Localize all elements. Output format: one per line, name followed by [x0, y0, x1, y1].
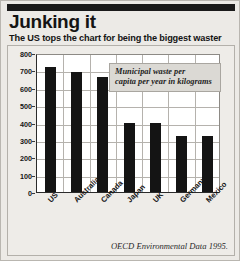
- top-rule-divider: [7, 4, 235, 11]
- y-axis-tick-label: 700: [8, 67, 32, 76]
- page-title: Junking it: [9, 12, 237, 31]
- gridline-vertical: [63, 55, 64, 192]
- y-axis-tick: [32, 71, 35, 72]
- page-subtitle: The US tops the chart for being the bigg…: [9, 33, 237, 44]
- chart-figure: Junking it The US tops the chart for bei…: [0, 0, 240, 261]
- bar: [176, 136, 187, 192]
- y-axis-tick: [32, 54, 35, 55]
- y-axis-tick: [32, 124, 35, 125]
- bar: [71, 72, 82, 192]
- y-axis-tick-label: 200: [8, 154, 32, 163]
- y-axis-tick-label: 300: [8, 136, 32, 145]
- headline-block: Junking it The US tops the chart for bei…: [9, 12, 237, 44]
- y-axis-tick-label: 500: [8, 102, 32, 111]
- bar: [124, 123, 135, 193]
- gridline-horizontal: [37, 107, 219, 108]
- annotation-line-1: Municipal waste per: [115, 67, 216, 77]
- y-axis-tick-label: 400: [8, 119, 32, 128]
- y-axis-tick-label: 100: [8, 171, 32, 180]
- y-axis-tick: [32, 193, 35, 194]
- bar: [97, 77, 108, 192]
- y-axis-tick: [32, 141, 35, 142]
- source-note: OECD Environmental Data 1995.: [111, 241, 228, 251]
- gridline-vertical: [90, 55, 91, 192]
- y-axis-tick-label: 600: [8, 84, 32, 93]
- chart-panel: Municipal waste per capita per year in k…: [7, 45, 235, 256]
- bar: [45, 67, 56, 192]
- annotation-line-2: capita per year in kilograms: [115, 77, 216, 87]
- y-axis-tick: [32, 158, 35, 159]
- y-axis-tick: [32, 176, 35, 177]
- annotation-box: Municipal waste per capita per year in k…: [109, 63, 221, 92]
- y-axis-tick-label: 0: [8, 189, 32, 198]
- bar: [150, 123, 161, 192]
- y-axis-tick: [32, 106, 35, 107]
- y-axis-tick-label: 800: [8, 50, 32, 59]
- y-axis-tick: [32, 89, 35, 90]
